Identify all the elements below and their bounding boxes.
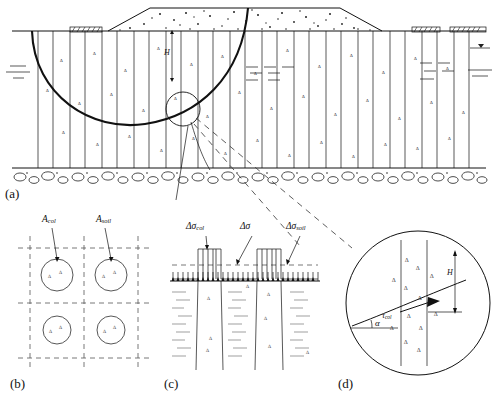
- bedrock-dots: [26, 172, 478, 174]
- panel-a-tag: (a): [5, 186, 19, 202]
- panel-c-tag: (c): [164, 376, 178, 392]
- stress-blocks: [172, 249, 318, 279]
- water-table-right: [468, 44, 492, 76]
- svg-text:∆: ∆: [430, 100, 433, 105]
- panel-c-leaders: [205, 236, 300, 265]
- svg-text:∆: ∆: [128, 134, 131, 139]
- svg-text:∆: ∆: [350, 53, 353, 58]
- svg-text:∆: ∆: [103, 329, 106, 334]
- svg-text:∆: ∆: [382, 70, 385, 75]
- svg-text:∆: ∆: [448, 136, 451, 141]
- detail-magnifier-circle: [346, 231, 490, 375]
- svg-text:∆: ∆: [430, 273, 434, 279]
- svg-text:∆: ∆: [246, 284, 249, 289]
- bedrock-rock-symbols: [14, 172, 487, 184]
- svg-text:∆: ∆: [268, 344, 271, 349]
- svg-text:∆: ∆: [366, 98, 369, 103]
- panel-b-group: ∆∆ ∆∆ ∆∆ ∆∆: [18, 228, 150, 370]
- figure-root: ∆ ∆ ∆ ∆ ∆ ∆ ∆ ∆ ∆ ∆ ∆ ∆ ∆ ∆ ∆ ∆ ∆ ∆ ∆ ∆: [0, 0, 497, 409]
- svg-text:∆: ∆: [46, 88, 49, 93]
- svg-text:∆: ∆: [288, 153, 291, 158]
- svg-text:∆: ∆: [286, 48, 289, 53]
- svg-text:∆: ∆: [113, 270, 116, 275]
- svg-text:∆: ∆: [404, 285, 408, 291]
- svg-text:∆: ∆: [174, 96, 177, 101]
- svg-text:∆: ∆: [405, 257, 409, 263]
- svg-text:∆: ∆: [256, 138, 259, 143]
- figure-canvas: ∆ ∆ ∆ ∆ ∆ ∆ ∆ ∆ ∆ ∆ ∆ ∆ ∆ ∆ ∆ ∆ ∆ ∆ ∆ ∆: [0, 0, 497, 409]
- water-table-left: [6, 66, 30, 78]
- svg-text:∆: ∆: [62, 130, 65, 135]
- panel-a-group: ∆ ∆ ∆ ∆ ∆ ∆ ∆ ∆ ∆ ∆ ∆ ∆ ∆ ∆ ∆ ∆ ∆ ∆ ∆ ∆: [6, 8, 492, 248]
- svg-text:∆: ∆: [78, 101, 81, 106]
- svg-text:∆: ∆: [110, 92, 113, 97]
- svg-text:∆: ∆: [318, 64, 321, 69]
- embankment-height-dimension: [170, 30, 174, 82]
- svg-text:∆: ∆: [124, 68, 127, 73]
- svg-text:∆: ∆: [192, 136, 195, 141]
- svg-text:∆: ∆: [352, 154, 355, 159]
- tau-column-label: τcol: [382, 311, 392, 320]
- svg-text:∆: ∆: [59, 325, 62, 330]
- column-circle-marks: ∆∆ ∆∆ ∆∆ ∆∆: [48, 270, 116, 334]
- svg-text:∆: ∆: [320, 140, 323, 145]
- svg-text:∆: ∆: [462, 110, 465, 115]
- svg-text:∆: ∆: [270, 106, 273, 111]
- svg-text:∆: ∆: [224, 151, 227, 156]
- svg-text:∆: ∆: [157, 46, 160, 51]
- svg-text:∆: ∆: [238, 90, 241, 95]
- area-soil-label: Asoil: [96, 214, 111, 224]
- svg-text:∆: ∆: [446, 66, 449, 71]
- svg-text:∆: ∆: [419, 325, 423, 331]
- svg-text:∆: ∆: [206, 114, 209, 119]
- svg-text:∆: ∆: [113, 325, 116, 330]
- detail-height-dimension: [428, 250, 462, 314]
- svg-text:∆: ∆: [417, 347, 421, 353]
- panel-b-leaders: [52, 228, 114, 262]
- svg-text:∆: ∆: [49, 329, 52, 334]
- alpha-angle-label: α: [375, 318, 380, 328]
- svg-text:∆: ∆: [207, 296, 210, 301]
- delta-sigma-soil-label: Δσsoil: [286, 221, 306, 231]
- detail-height-label: H: [447, 268, 453, 277]
- unit-cell-grid: [18, 236, 150, 370]
- svg-text:∆: ∆: [59, 270, 62, 275]
- svg-text:∆: ∆: [93, 51, 96, 56]
- svg-text:∆: ∆: [209, 336, 212, 341]
- stone-column-set: [38, 31, 469, 168]
- svg-text:∆: ∆: [392, 277, 396, 283]
- panel-d-group: ∆∆ ∆∆ ∆∆ ∆∆ ∆∆ ∆∆: [346, 231, 490, 375]
- panel-b-tag: (b): [10, 376, 25, 392]
- bedrock-boundary: [12, 168, 487, 183]
- svg-text:∆: ∆: [206, 348, 209, 353]
- delta-sigma-average-label: Δσ: [240, 221, 250, 231]
- svg-text:∆: ∆: [414, 56, 417, 61]
- svg-text:∆: ∆: [302, 94, 305, 99]
- slip-plane-through-column: [352, 280, 466, 326]
- svg-text:∆: ∆: [398, 116, 401, 121]
- svg-text:∆: ∆: [404, 339, 408, 345]
- area-column-label: Acol: [42, 214, 56, 224]
- svg-text:∆: ∆: [48, 274, 51, 279]
- svg-text:∆: ∆: [407, 313, 411, 319]
- detail-circle-marker: [166, 92, 200, 126]
- soft-clay-and-columns: ∆ ∆ ∆ ∆ ∆ ∆ ∆ ∆ ∆ ∆ ∆ ∆ ∆ ∆ ∆ ∆ ∆ ∆ ∆ ∆: [38, 31, 469, 168]
- svg-text:∆: ∆: [416, 265, 420, 271]
- detail-contents: ∆∆ ∆∆ ∆∆ ∆∆ ∆∆ ∆∆: [350, 240, 466, 366]
- svg-text:∆: ∆: [96, 142, 99, 147]
- delta-sigma-column-label: Δσcol: [186, 221, 204, 231]
- svg-text:∆: ∆: [160, 148, 163, 153]
- svg-text:∆: ∆: [334, 112, 337, 117]
- svg-text:∆: ∆: [267, 292, 270, 297]
- svg-text:∆: ∆: [384, 142, 387, 147]
- svg-text:∆: ∆: [60, 58, 63, 63]
- svg-text:∆: ∆: [416, 146, 419, 151]
- panel-d-tag: (d): [338, 376, 353, 392]
- svg-text:∆: ∆: [264, 316, 267, 321]
- svg-text:∆: ∆: [254, 71, 257, 76]
- svg-text:∆: ∆: [142, 108, 145, 113]
- clay-symbols: ∆ ∆ ∆ ∆ ∆ ∆ ∆ ∆ ∆ ∆ ∆ ∆ ∆ ∆ ∆ ∆ ∆ ∆ ∆ ∆: [46, 46, 465, 159]
- svg-text:∆: ∆: [102, 274, 105, 279]
- panel-c-group: ∆∆∆ ∆∆∆ ∆∆: [170, 236, 320, 370]
- svg-text:∆: ∆: [190, 62, 193, 67]
